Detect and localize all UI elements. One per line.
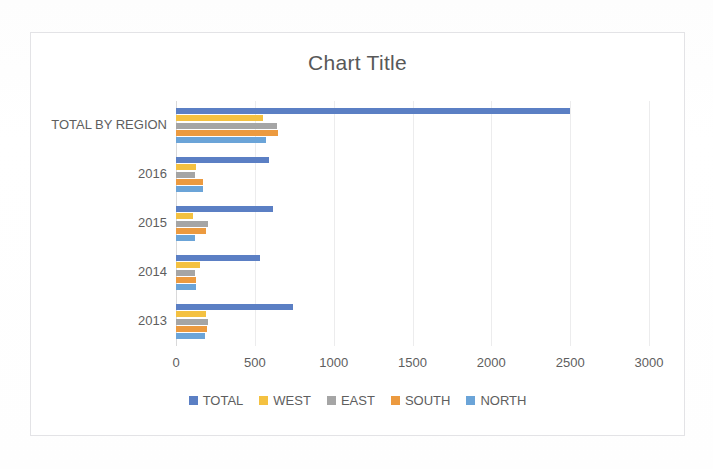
bar-group xyxy=(176,101,649,150)
category-label-total-by-region: TOTAL BY REGION xyxy=(51,117,167,132)
legend-swatch-total-icon xyxy=(189,396,198,405)
legend-label: WEST xyxy=(273,393,311,408)
bar-west-2016 xyxy=(176,164,196,170)
bar-total-2015 xyxy=(176,206,273,212)
chart-title: Chart Title xyxy=(31,51,684,75)
bar-east-2016 xyxy=(176,172,195,178)
bar-west-2015 xyxy=(176,213,193,219)
bar-south-2015 xyxy=(176,228,206,234)
legend-swatch-south-icon xyxy=(391,396,400,405)
bar-east-total-by-region xyxy=(176,123,277,129)
bar-north-total-by-region xyxy=(176,137,266,143)
bar-west-total-by-region xyxy=(176,115,263,121)
x-tick-label-2500: 2500 xyxy=(556,355,585,370)
chart-legend: TOTALWESTEASTSOUTHNORTH xyxy=(31,393,684,408)
bar-total-2014 xyxy=(176,255,260,261)
legend-label: NORTH xyxy=(480,393,526,408)
plot-area: TOTAL BY REGION2016201520142013 xyxy=(176,101,649,346)
bar-north-2013 xyxy=(176,333,205,339)
bar-group xyxy=(176,150,649,199)
bar-west-2014 xyxy=(176,262,200,268)
bar-north-2014 xyxy=(176,284,196,290)
gridline-3000 xyxy=(649,101,650,346)
legend-label: EAST xyxy=(341,393,375,408)
legend-swatch-west-icon xyxy=(259,396,268,405)
legend-item-south[interactable]: SOUTH xyxy=(391,393,451,408)
legend-item-north[interactable]: NORTH xyxy=(466,393,526,408)
bar-south-2013 xyxy=(176,326,207,332)
legend-swatch-north-icon xyxy=(466,396,475,405)
legend-swatch-east-icon xyxy=(327,396,336,405)
bar-group xyxy=(176,297,649,346)
legend-item-east[interactable]: EAST xyxy=(327,393,375,408)
bar-total-2013 xyxy=(176,304,293,310)
bar-group xyxy=(176,199,649,248)
bar-west-2013 xyxy=(176,311,206,317)
bar-south-2016 xyxy=(176,179,203,185)
x-tick-label-3000: 3000 xyxy=(635,355,664,370)
category-label-2016: 2016 xyxy=(138,166,167,181)
category-label-2015: 2015 xyxy=(138,215,167,230)
category-label-2014: 2014 xyxy=(138,264,167,279)
x-tick-label-1500: 1500 xyxy=(398,355,427,370)
category-label-2013: 2013 xyxy=(138,313,167,328)
legend-label: SOUTH xyxy=(405,393,451,408)
x-tick-label-1000: 1000 xyxy=(319,355,348,370)
bar-group xyxy=(176,248,649,297)
legend-item-west[interactable]: WEST xyxy=(259,393,311,408)
x-tick-label-0: 0 xyxy=(172,355,179,370)
bar-north-2015 xyxy=(176,235,195,241)
bar-total-2016 xyxy=(176,157,269,163)
bar-total-total-by-region xyxy=(176,108,570,114)
bar-east-2014 xyxy=(176,270,195,276)
bar-east-2015 xyxy=(176,221,208,227)
x-tick-label-2000: 2000 xyxy=(477,355,506,370)
legend-item-total[interactable]: TOTAL xyxy=(189,393,244,408)
bar-south-2014 xyxy=(176,277,196,283)
legend-label: TOTAL xyxy=(203,393,244,408)
bar-east-2013 xyxy=(176,319,208,325)
bar-north-2016 xyxy=(176,186,203,192)
bar-south-total-by-region xyxy=(176,130,278,136)
x-tick-label-500: 500 xyxy=(244,355,266,370)
chart-frame: Chart Title TOTAL BY REGION2016201520142… xyxy=(30,32,685,436)
x-axis: 050010001500200025003000 xyxy=(176,351,649,375)
